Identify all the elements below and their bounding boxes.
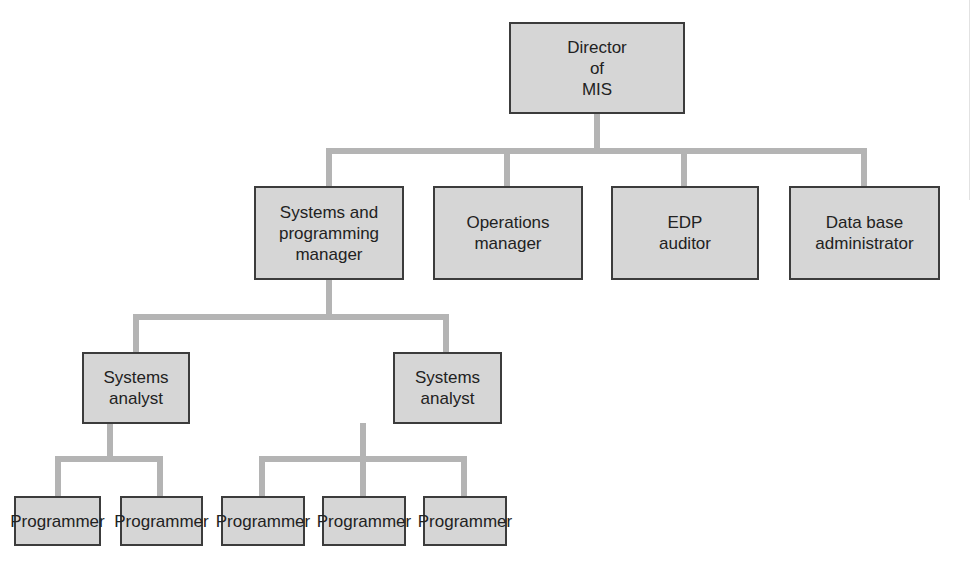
node-label: Programmer — [418, 511, 512, 532]
connector-prog-bus-2 — [259, 456, 467, 462]
node-label: EDP auditor — [659, 212, 711, 254]
node-label: Programmer — [10, 511, 104, 532]
node-programmer-2: Programmer — [120, 496, 203, 546]
connector-to-edp — [681, 148, 687, 186]
connector-director-down — [594, 113, 600, 153]
connector-analyst-bus — [133, 314, 449, 320]
node-label: Systems and programming manager — [279, 202, 379, 265]
node-systems-analyst-2: Systems analyst — [393, 352, 502, 424]
connector-to-analyst2 — [443, 314, 449, 352]
connector-to-prog2 — [157, 456, 163, 496]
node-label: Director of MIS — [567, 37, 627, 100]
connector-to-spm — [326, 148, 332, 186]
node-label: Systems analyst — [103, 367, 168, 409]
connector-to-ops — [504, 148, 510, 186]
node-operations-manager: Operations manager — [433, 186, 583, 280]
node-label: Programmer — [114, 511, 208, 532]
connector-to-prog1 — [55, 456, 61, 496]
connector-spm-down — [326, 279, 332, 319]
node-label: Data base administrator — [815, 212, 913, 254]
node-label: Operations manager — [466, 212, 549, 254]
connector-to-prog3 — [259, 456, 265, 496]
connector-level2-bus — [326, 148, 867, 154]
node-programmer-3: Programmer — [221, 496, 305, 546]
connector-to-dba — [861, 148, 867, 186]
node-label: Programmer — [317, 511, 411, 532]
connector-to-prog5 — [461, 456, 467, 496]
node-programmer-4: Programmer — [322, 496, 406, 546]
connector-prog-bus-1 — [55, 456, 163, 462]
node-director-of-mis: Director of MIS — [509, 22, 685, 114]
node-data-base-administrator: Data base administrator — [789, 186, 940, 280]
node-systems-programming-manager: Systems and programming manager — [254, 186, 404, 280]
node-programmer-1: Programmer — [14, 496, 101, 546]
node-label: Systems analyst — [415, 367, 480, 409]
node-systems-analyst-1: Systems analyst — [82, 352, 190, 424]
node-edp-auditor: EDP auditor — [611, 186, 759, 280]
node-programmer-5: Programmer — [423, 496, 507, 546]
node-label: Programmer — [216, 511, 310, 532]
page-edge-line — [969, 0, 970, 200]
connector-to-analyst1 — [133, 314, 139, 352]
